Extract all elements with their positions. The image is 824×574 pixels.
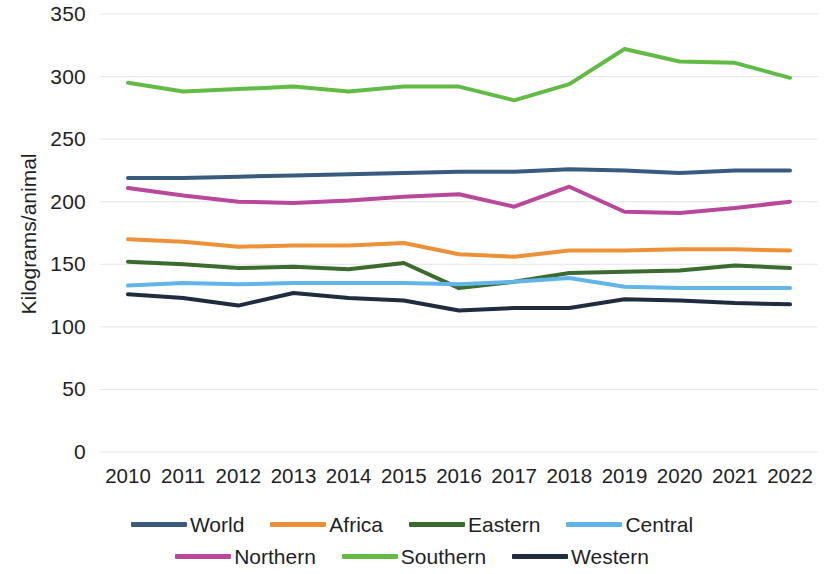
plot-area <box>0 0 824 574</box>
legend-label: World <box>190 514 244 535</box>
y-tick-label: 150 <box>0 253 86 274</box>
series-line-northern <box>128 187 790 213</box>
legend-item-africa[interactable]: Africa <box>270 514 383 535</box>
x-tick-label: 2021 <box>705 466 765 487</box>
x-tick-label: 2011 <box>153 466 213 487</box>
series-line-southern <box>128 49 790 100</box>
series-line-world <box>128 169 790 178</box>
legend-swatch-icon <box>270 522 326 527</box>
legend-swatch-icon <box>409 522 465 527</box>
x-tick-label: 2022 <box>760 466 820 487</box>
series-line-western <box>128 293 790 311</box>
y-tick-label: 300 <box>0 66 86 87</box>
legend-label: Southern <box>401 546 486 567</box>
chart-legend: WorldAfricaEasternCentralNorthernSouther… <box>0 508 824 572</box>
legend-swatch-icon <box>512 554 568 559</box>
y-tick-label: 350 <box>0 3 86 24</box>
legend-label: Africa <box>329 514 383 535</box>
legend-swatch-icon <box>342 554 398 559</box>
legend-row: NorthernSouthernWestern <box>0 540 824 572</box>
legend-item-western[interactable]: Western <box>512 546 649 567</box>
x-tick-label: 2010 <box>98 466 158 487</box>
legend-label: Central <box>625 514 693 535</box>
y-tick-label: 200 <box>0 191 86 212</box>
legend-label: Eastern <box>468 514 540 535</box>
y-tick-label: 100 <box>0 316 86 337</box>
line-chart: 050100150200250300350 201020112012201320… <box>0 0 824 574</box>
legend-item-northern[interactable]: Northern <box>175 546 316 567</box>
y-tick-label: 50 <box>0 378 86 399</box>
legend-swatch-icon <box>131 522 187 527</box>
x-tick-label: 2013 <box>264 466 324 487</box>
legend-item-world[interactable]: World <box>131 514 244 535</box>
y-tick-label: 0 <box>0 441 86 462</box>
y-tick-label: 250 <box>0 128 86 149</box>
series-lines <box>128 49 790 311</box>
legend-label: Northern <box>234 546 316 567</box>
x-tick-label: 2014 <box>319 466 379 487</box>
legend-item-southern[interactable]: Southern <box>342 546 486 567</box>
legend-item-eastern[interactable]: Eastern <box>409 514 540 535</box>
legend-row: WorldAfricaEasternCentral <box>0 508 824 540</box>
y-axis-title: Kilograms/animal <box>17 109 41 359</box>
x-tick-label: 2019 <box>595 466 655 487</box>
x-tick-label: 2016 <box>429 466 489 487</box>
x-tick-label: 2020 <box>650 466 710 487</box>
x-tick-label: 2018 <box>539 466 599 487</box>
legend-swatch-icon <box>175 554 231 559</box>
series-line-africa <box>128 239 790 257</box>
x-tick-label: 2012 <box>208 466 268 487</box>
legend-label: Western <box>571 546 649 567</box>
x-tick-label: 2015 <box>374 466 434 487</box>
legend-item-central[interactable]: Central <box>566 514 693 535</box>
x-tick-label: 2017 <box>484 466 544 487</box>
legend-swatch-icon <box>566 522 622 527</box>
gridlines <box>100 14 818 452</box>
